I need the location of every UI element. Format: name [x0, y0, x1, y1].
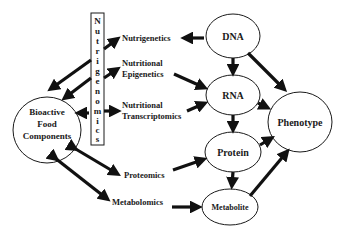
arrow-protein-to-metabolite [232, 172, 233, 184]
nutrigenomics-letter: s [96, 134, 100, 144]
diagram-canvas: N u t r i g e n o m i c s Bioactive Food… [0, 0, 345, 233]
transcriptomics-label-line2: Transcriptomics [122, 111, 182, 121]
arrow-transcriptomics-to-rna [187, 104, 203, 111]
transcriptomics-label-line1: Nutritional [122, 100, 163, 110]
nutrigenomics-letter: o [95, 96, 100, 106]
proteomics-label: Proteomics [124, 170, 165, 180]
bioactive-label-line2: Food [37, 119, 57, 129]
bioactive-food-components-node: Bioactive Food Components [13, 97, 81, 163]
phenotype-node: Phenotype [268, 92, 332, 152]
arrow-bioactive-proteomics [74, 148, 116, 173]
nutrigenomics-letter: N [94, 16, 101, 26]
nutrigenomics-letter: t [96, 36, 99, 46]
arrow-protein-to-phenotype [260, 139, 270, 145]
phenotype-label: Phenotype [278, 117, 324, 128]
nutrigenomics-letter: u [95, 26, 100, 36]
metabolite-label: Metabolite [212, 203, 249, 212]
nutrigenomics-letter: e [96, 76, 100, 86]
arrow-to-nutrigenetics [104, 40, 116, 49]
dna-label: DNA [222, 31, 244, 42]
nutrigenomics-letter: n [95, 86, 100, 96]
nutrigenomics-letter: m [94, 106, 102, 116]
metabolomics-label: Metabolomics [112, 197, 164, 207]
arrow-rna-to-phenotype [258, 103, 266, 107]
epigenetics-label-line1: Nutritional [122, 58, 163, 68]
nutrigenomics-box: N u t r i g e n o m i c s [91, 13, 104, 145]
nutrigenomics-letter: r [96, 46, 100, 56]
arrow-box-to-bioactive-2 [66, 78, 91, 97]
epigenetics-label-line2: Epigenetics [122, 69, 164, 79]
rna-node: RNA [206, 75, 260, 115]
protein-node: Protein [205, 132, 261, 172]
bioactive-label-line1: Bioactive [29, 107, 65, 117]
arrow-epigenetics-to-rna [174, 74, 203, 87]
dna-node: DNA [206, 14, 260, 58]
arrow-to-epigenetics [104, 70, 116, 78]
nutrigenetics-label: Nutrigenetics [122, 33, 171, 43]
arrow-proteomics-to-protein [173, 160, 202, 170]
protein-label: Protein [217, 147, 249, 158]
nutrigenomics-letter: g [95, 66, 100, 76]
rna-label: RNA [222, 90, 244, 101]
arrows [52, 38, 286, 207]
bioactive-label-line3: Components [23, 131, 72, 141]
